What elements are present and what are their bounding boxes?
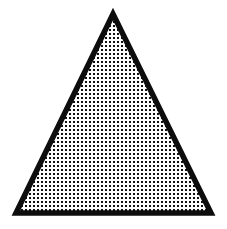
triangle-figure	[0, 0, 227, 229]
figure-canvas	[0, 0, 227, 229]
